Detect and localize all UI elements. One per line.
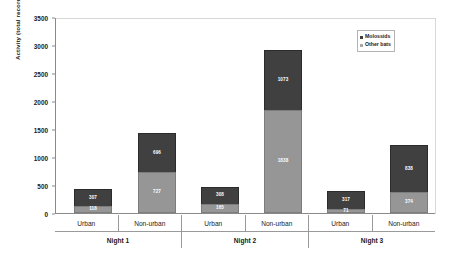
bar-value-label: 118 <box>89 207 97 212</box>
legend-swatch-icon <box>360 44 363 47</box>
legend-item-molossids[interactable]: Molossids <box>360 33 391 41</box>
legend-swatch-icon <box>360 36 363 39</box>
y-tick-3000: 3000 <box>34 43 48 50</box>
y-tick-3500: 3500 <box>34 15 48 22</box>
bar-value-label: 374 <box>405 200 413 205</box>
bar-value-label: 165 <box>216 206 224 211</box>
group-label-night2: Night 2 <box>182 232 309 248</box>
y-tick-2500: 2500 <box>34 71 48 78</box>
category-label-night1-urban: Urban <box>55 215 119 232</box>
y-axis-tick-labels: 3500 3000 2500 2000 1500 1000 500 0 <box>24 18 52 214</box>
category-axis-row: Urban Non-urban Urban Non-urban Urban No… <box>55 215 435 232</box>
segment-molossids[interactable]: 307 <box>74 189 112 206</box>
segment-molossids[interactable]: 696 <box>138 133 176 172</box>
segment-molossids[interactable]: 308 <box>201 187 239 204</box>
y-tick-1500: 1500 <box>34 127 48 134</box>
bar-value-label: 727 <box>153 190 161 195</box>
legend-item-other-bats[interactable]: Other bats <box>360 41 391 49</box>
bar-value-label: 1073 <box>278 78 289 83</box>
bar-value-label: 307 <box>89 196 97 201</box>
segment-other-bats[interactable]: 374 <box>390 192 428 213</box>
group-label-night1: Night 1 <box>55 232 182 248</box>
plot-frame-right <box>435 18 436 214</box>
category-label-night3-nonurban: Non-urban <box>373 215 436 232</box>
bar-value-label: 317 <box>342 198 350 203</box>
y-tick-1000: 1000 <box>34 155 48 162</box>
bar-value-label: 71 <box>343 209 348 214</box>
segment-molossids[interactable]: 838 <box>390 145 428 192</box>
segment-molossids[interactable]: 317 <box>327 191 365 209</box>
group-axis-row: Night 1 Night 2 Night 3 <box>55 232 435 248</box>
group-label-night3: Night 3 <box>309 232 435 248</box>
category-label-night2-urban: Urban <box>182 215 246 232</box>
y-tick-500: 500 <box>37 183 48 190</box>
segment-other-bats[interactable]: 71 <box>327 209 365 213</box>
bar-value-label: 308 <box>216 193 224 198</box>
segment-other-bats[interactable]: 118 <box>74 206 112 213</box>
category-label-night3-urban: Urban <box>309 215 373 232</box>
segment-other-bats[interactable]: 165 <box>201 204 239 213</box>
bat-activity-stacked-bar-chart: Activity (total records) 3500 3000 2500 … <box>0 0 459 269</box>
segment-other-bats[interactable]: 1838 <box>264 110 302 213</box>
category-label-night2-nonurban: Non-urban <box>246 215 310 232</box>
legend-label: Molossids <box>365 34 390 39</box>
category-label-night1-nonurban: Non-urban <box>119 215 183 232</box>
segment-other-bats[interactable]: 727 <box>138 172 176 213</box>
bar-value-label: 1838 <box>278 159 289 164</box>
y-tick-0: 0 <box>44 211 48 218</box>
segment-molossids[interactable]: 1073 <box>264 50 302 110</box>
y-tick-2000: 2000 <box>34 99 48 106</box>
bar-value-label: 696 <box>153 151 161 156</box>
chart-legend: Molossids Other bats <box>357 30 395 52</box>
legend-label: Other bats <box>365 42 391 47</box>
bar-value-label: 838 <box>405 167 413 172</box>
